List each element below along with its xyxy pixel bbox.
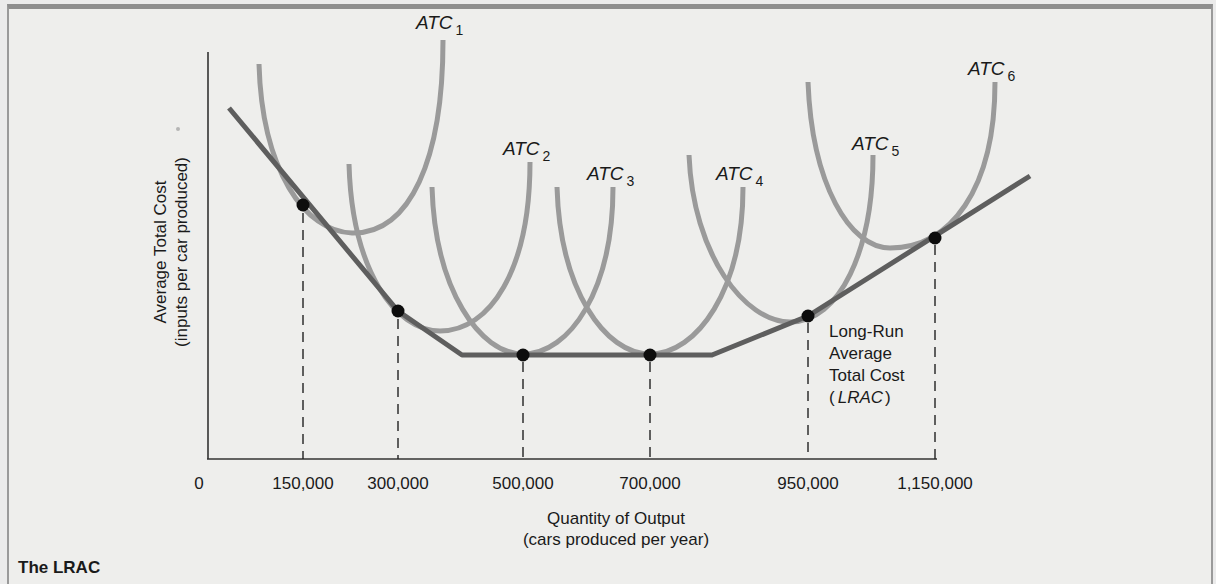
point-500000 (517, 349, 530, 362)
atc6-label: ATC6 (967, 58, 1016, 84)
y-axis-subtitle: (inputs per car produced) (172, 157, 191, 347)
x-tick-150000: 150,000 (272, 474, 333, 493)
point-950000 (802, 310, 815, 323)
x-tick-1150000: 1,150,000 (897, 474, 973, 493)
x-tick-700000: 700,000 (619, 474, 680, 493)
x-axis-subtitle: (cars produced per year) (523, 530, 709, 549)
speck (176, 127, 180, 131)
figure-caption: The LRAC (18, 558, 100, 578)
atc1-label: ATC1 (415, 12, 464, 38)
point-700000 (644, 349, 657, 362)
y-axis-title: Average Total Cost (151, 180, 170, 323)
point-150000 (297, 199, 310, 212)
x-tick-labels: 0 150,000 300,000 500,000 700,000 950,00… (194, 474, 973, 493)
x-tick-0: 0 (194, 474, 203, 493)
atc4-label: ATC4 (715, 163, 764, 189)
point-300000 (392, 305, 405, 318)
x-tick-950000: 950,000 (777, 474, 838, 493)
lrac-label-line3: Total Cost (829, 366, 905, 385)
x-axis-label: Quantity of Output (cars produced per ye… (523, 509, 709, 549)
lrac-label-line2: Average (829, 344, 892, 363)
lrac-label-line4: (LRAC) (829, 388, 891, 407)
atc3-label: ATC3 (586, 163, 635, 189)
atc2-label: ATC2 (502, 138, 551, 164)
atc4-curve (557, 187, 743, 354)
point-1150000 (929, 232, 942, 245)
atc6-curve (808, 82, 995, 248)
y-axis-label: Average Total Cost (inputs per car produ… (151, 157, 191, 347)
x-tick-500000: 500,000 (492, 474, 553, 493)
x-axis-title: Quantity of Output (547, 509, 685, 528)
x-tick-300000: 300,000 (367, 474, 428, 493)
lrac-annotation: Long-Run Average Total Cost (LRAC) (829, 322, 905, 407)
lrac-label-line1: Long-Run (829, 322, 904, 341)
atc-curves (259, 40, 995, 354)
